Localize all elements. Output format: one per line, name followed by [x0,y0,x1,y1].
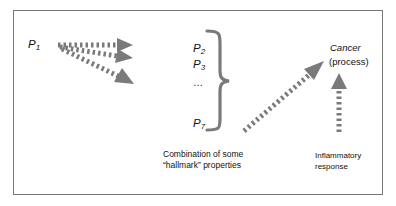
node-p2-subscript: 2 [201,47,205,56]
inflammatory-caption: Inflammatory response [315,150,361,172]
node-p3-subscript: 3 [201,63,205,72]
dotted-arrow-inflammatory-to-cancer [331,73,347,132]
node-p1: P1 [28,38,40,54]
node-p2-letter: P [193,42,201,54]
node-p2: P2 [193,42,205,58]
node-p3: P3 [193,58,205,74]
inflammatory-caption-line2: response [315,161,361,172]
arrows-layer [0,0,396,206]
node-p7-subscript: 7 [201,122,205,131]
hallmark-caption: Combination of some “hallmark” propertie… [163,149,243,171]
curly-brace [207,31,229,130]
node-ellipsis: … [193,76,203,89]
node-p3-letter: P [193,58,201,70]
node-p1-letter: P [28,38,36,50]
node-p1-subscript: 1 [36,43,40,52]
node-p7: P7 [193,117,205,133]
hallmark-caption-line1: Combination of some [163,149,243,160]
cancer-subtitle: (process) [329,55,369,68]
node-p7-letter: P [193,117,201,129]
hallmark-caption-line2: “hallmark” properties [163,160,243,171]
cancer-title: Cancer [330,41,361,54]
dotted-arrow-hallmark-to-cancer [244,61,324,131]
inflammatory-caption-line1: Inflammatory [315,150,361,161]
